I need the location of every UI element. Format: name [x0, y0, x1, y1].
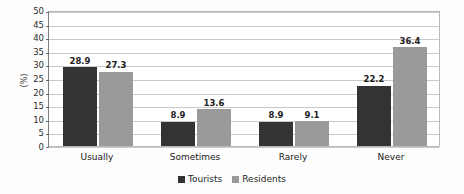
y-axis-tick-label: 5 [16, 129, 44, 138]
bar [197, 109, 231, 146]
x-axis-category-label: Rarely [244, 152, 342, 162]
bar-chart: (%) 50454035302520151050 28.927.38.913.6… [0, 0, 464, 194]
y-axis-tick-label: 45 [16, 20, 44, 29]
bar-value-label: 9.1 [291, 111, 333, 120]
y-axis-tick-label: 35 [16, 48, 44, 57]
bar-value-label: 8.9 [157, 111, 199, 120]
gridline [49, 147, 439, 148]
plot-area: 28.927.38.913.68.99.122.236.4 [48, 11, 440, 147]
bars-layer: 28.927.38.913.68.99.122.236.4 [49, 12, 439, 146]
legend-label: Residents [242, 174, 286, 184]
y-axis-tick-label: 10 [16, 116, 44, 125]
bar [161, 122, 195, 146]
bar [357, 86, 391, 146]
legend-item: Residents [232, 174, 286, 184]
bar [259, 122, 293, 146]
legend: TouristsResidents [0, 174, 464, 184]
bar-value-label: 13.6 [193, 99, 235, 108]
bar-value-label: 27.3 [95, 61, 137, 70]
y-axis-tickmark [46, 147, 49, 148]
legend-label: Tourists [188, 174, 222, 184]
y-axis-tick-labels: 50454035302520151050 [16, 11, 44, 147]
bar [393, 47, 427, 146]
y-axis-tick-label: 0 [16, 143, 44, 152]
y-axis-tick-label: 15 [16, 102, 44, 111]
y-axis-tick-label: 50 [16, 7, 44, 16]
bar-value-label: 36.4 [389, 37, 431, 46]
bar [295, 121, 329, 146]
x-axis-category-label: Sometimes [146, 152, 244, 162]
x-axis-category-label: Never [342, 152, 440, 162]
x-axis-category-labels: UsuallySometimesRarelyNever [48, 152, 440, 166]
bar [99, 72, 133, 146]
y-axis-tick-label: 40 [16, 34, 44, 43]
bar [63, 67, 97, 146]
y-axis-tick-label: 30 [16, 61, 44, 70]
legend-item: Tourists [178, 174, 222, 184]
legend-swatch-icon [178, 176, 185, 183]
y-axis-tick-label: 25 [16, 75, 44, 84]
legend-swatch-icon [232, 176, 239, 183]
y-axis-tick-label: 20 [16, 88, 44, 97]
x-axis-category-label: Usually [48, 152, 146, 162]
bar-value-label: 22.2 [353, 75, 395, 84]
